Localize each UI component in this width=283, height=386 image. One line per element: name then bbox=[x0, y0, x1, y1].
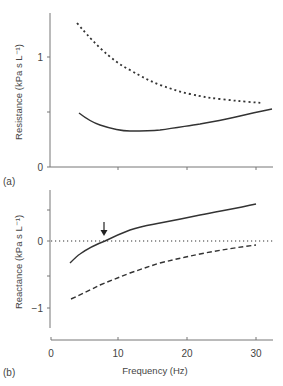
reactance-dashed-series bbox=[71, 245, 256, 299]
panel-label-a: (a) bbox=[3, 176, 15, 187]
x-axis-title: Frequency (Hz) bbox=[122, 365, 187, 376]
figure: 1 0 Resistance (kPa s L⁻¹) (a) 0 −1 0 10… bbox=[0, 0, 283, 386]
reactance-solid-series bbox=[70, 204, 256, 263]
panel-b: 0 −1 0 10 20 30 Frequency (Hz) Reactance… bbox=[3, 190, 273, 378]
tick-label: 0 bbox=[37, 236, 43, 247]
tick-label: 20 bbox=[181, 348, 193, 359]
y-axis-title-resistance: Resistance (kPa s L⁻¹) bbox=[13, 44, 24, 140]
panel-a: 1 0 Resistance (kPa s L⁻¹) (a) bbox=[3, 13, 273, 187]
tick-label: 30 bbox=[250, 348, 262, 359]
tick-label: 0 bbox=[48, 348, 54, 359]
y-axis-title-reactance: Reactance (kPa s L⁻¹) bbox=[13, 215, 24, 309]
arrow-down-icon bbox=[101, 222, 108, 236]
tick-label: 10 bbox=[112, 348, 124, 359]
resistance-dotted-series bbox=[77, 23, 262, 103]
tick-label: 0 bbox=[37, 162, 43, 173]
resistance-solid-series bbox=[79, 109, 272, 131]
tick-label: −1 bbox=[32, 303, 44, 314]
panel-label-b: (b) bbox=[3, 367, 15, 378]
tick-label: 1 bbox=[37, 52, 43, 63]
